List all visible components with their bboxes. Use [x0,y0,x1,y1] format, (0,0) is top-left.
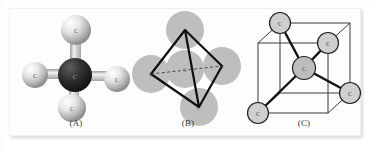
figure-panel: C C C C C (A) [9,8,361,136]
atom-bottom-back-right-label: C [348,91,352,97]
panel-a-ball-and-stick: C C C C C (A) [16,9,136,137]
panel-c-cube: C C C C C (C) [246,9,362,137]
panel-b-space-filling: C C C C C (B) [129,9,247,137]
tetrahedron-overlay-diagram: C C C C C [129,9,247,127]
atom-center-label: C [73,73,77,80]
panel-a-caption: (A) [16,118,136,128]
atom-cube-center-label: C [302,66,306,72]
cube-tetrahedron-diagram: C C C C C [246,9,362,127]
atom-bottom-front-label: C [70,106,74,112]
figure-root: C C C C C (A) [0,0,380,151]
panel-c-caption: (C) [246,118,362,128]
atom-top-front-right-label: C [326,41,330,47]
atom-top-back-left-label: C [278,21,282,27]
atom-top-label: C [74,28,78,34]
panel-b-caption: (B) [129,118,247,128]
atom-bottom-front-left-label: C [256,111,260,117]
atom-right-label: C [115,77,119,83]
ball-and-stick-diagram: C C C C C [16,9,136,127]
atom-left-label: C [33,73,37,79]
